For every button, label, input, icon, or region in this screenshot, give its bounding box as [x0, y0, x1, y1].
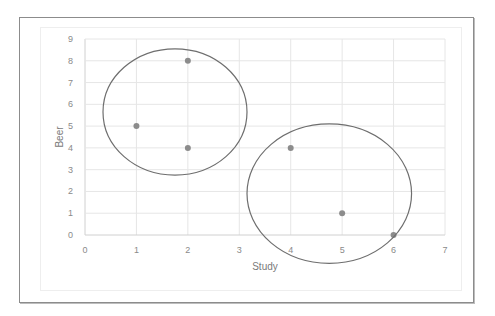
- y-tick-label: 4: [68, 143, 73, 153]
- y-tick-label: 8: [68, 56, 73, 66]
- y-tick-label: 9: [68, 34, 73, 44]
- y-tick-label: 3: [68, 165, 73, 175]
- data-point: [288, 145, 294, 151]
- y-tick-label: 5: [68, 121, 73, 131]
- x-tick-label: 1: [134, 245, 139, 255]
- y-axis-ticks: 0123456789: [68, 34, 73, 240]
- cluster-ellipses: [103, 49, 412, 264]
- cluster-2-ellipse: [247, 124, 412, 263]
- x-axis-title: Study: [252, 261, 278, 272]
- x-tick-label: 7: [442, 245, 447, 255]
- y-tick-label: 1: [68, 208, 73, 218]
- x-tick-label: 0: [82, 245, 87, 255]
- data-point: [185, 58, 191, 64]
- scatter-plot: 01234567 0123456789 Study Beer: [0, 0, 495, 316]
- x-tick-label: 6: [391, 245, 396, 255]
- y-tick-label: 6: [68, 99, 73, 109]
- cluster-1-ellipse: [103, 49, 247, 175]
- x-tick-label: 2: [185, 245, 190, 255]
- x-axis-ticks: 01234567: [82, 245, 447, 255]
- x-tick-label: 5: [340, 245, 345, 255]
- x-tick-label: 3: [237, 245, 242, 255]
- y-tick-label: 0: [68, 230, 73, 240]
- y-tick-label: 7: [68, 78, 73, 88]
- data-point: [185, 145, 191, 151]
- y-tick-label: 2: [68, 186, 73, 196]
- gridlines: [85, 39, 445, 235]
- data-point: [133, 123, 139, 129]
- y-axis-title: Beer: [54, 126, 65, 148]
- data-point: [339, 210, 345, 216]
- x-tick-label: 4: [288, 245, 293, 255]
